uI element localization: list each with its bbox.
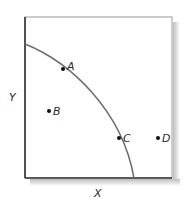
point-c-label: C [123, 132, 131, 145]
ppf-diagram: A B C D Y X [0, 0, 184, 205]
point-d-marker [156, 136, 160, 140]
point-b-marker [47, 109, 51, 113]
point-a-marker [61, 67, 65, 71]
point-d-label: D [162, 132, 170, 145]
point-c-marker [117, 136, 121, 140]
x-axis-label: X [93, 187, 102, 200]
point-b-label: B [53, 105, 61, 118]
frame-shadow-bottom [30, 179, 180, 186]
y-axis-label: Y [9, 91, 17, 104]
frame-shadow-right [173, 22, 180, 184]
point-a-label: A [66, 60, 75, 73]
plot-frame [25, 17, 172, 178]
